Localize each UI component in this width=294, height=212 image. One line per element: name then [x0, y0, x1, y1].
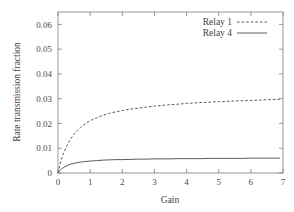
y-tick-label: 0.01 [36, 143, 52, 153]
y-axis: 00.010.020.030.040.050.06 [36, 20, 283, 179]
series-line-relay-4 [58, 158, 280, 173]
y-tick-label: 0.05 [36, 44, 52, 54]
y-tick-label: 0.03 [36, 94, 52, 104]
chart-legend: Relay 1Relay 4 [203, 17, 267, 38]
x-tick-label: 5 [216, 177, 221, 187]
y-tick-label: 0.06 [36, 20, 52, 30]
x-tick-label: 7 [281, 177, 286, 187]
x-axis-title: Gain [161, 195, 180, 205]
x-tick-label: 6 [249, 177, 254, 187]
y-tick-label: 0 [48, 168, 53, 178]
x-tick-label: 2 [120, 177, 125, 187]
y-tick-label: 0.02 [36, 119, 52, 129]
x-tick-label: 0 [56, 177, 61, 187]
y-axis-title: Rate transmission fraction [12, 42, 22, 142]
legend-label-relay-4: Relay 4 [203, 28, 233, 38]
line-chart: 00.010.020.030.040.050.06 01234567 Gain … [0, 0, 294, 212]
x-tick-label: 1 [88, 177, 93, 187]
x-tick-label: 4 [184, 177, 189, 187]
y-tick-label: 0.04 [36, 69, 52, 79]
legend-label-relay-1: Relay 1 [203, 17, 233, 27]
series-group [58, 99, 280, 173]
x-tick-label: 3 [152, 177, 157, 187]
plot-frame [58, 12, 283, 173]
chart-figure: 00.010.020.030.040.050.06 01234567 Gain … [0, 0, 294, 212]
series-line-relay-1 [58, 99, 280, 173]
